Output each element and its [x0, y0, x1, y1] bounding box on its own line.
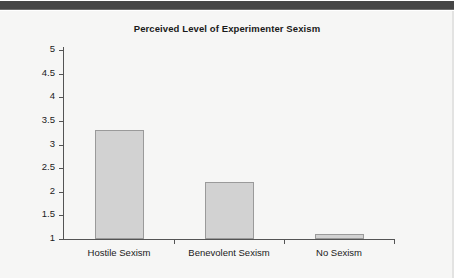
y-tick-label: 3	[50, 138, 55, 149]
y-tick-mark	[59, 121, 64, 122]
y-tick-mark	[59, 168, 64, 169]
y-tick-mark	[59, 215, 64, 216]
y-tick-mark	[59, 239, 64, 240]
x-tick-mark	[284, 239, 285, 244]
x-axis-label: No Sexism	[316, 247, 362, 258]
y-tick-mark	[59, 74, 64, 75]
chart-canvas: Perceived Level of Experimenter Sexism 5…	[0, 11, 452, 278]
y-tick-mark	[59, 50, 64, 51]
y-tick-label: 2.5	[42, 161, 55, 172]
y-tick-label: 2	[50, 185, 55, 196]
chart-figure: Perceived Level of Experimenter Sexism 5…	[0, 11, 454, 278]
y-tick-label: 1.5	[42, 208, 55, 219]
y-tick-label: 4	[50, 90, 55, 101]
plot-area: 54.543.532.521.51 Hostile SexismBenevole…	[64, 50, 394, 239]
bar	[95, 130, 144, 239]
y-axis-line	[63, 47, 64, 239]
x-tick-mark	[394, 239, 395, 244]
y-tick-label: 1	[50, 232, 55, 243]
x-axis-label: Benevolent Sexism	[188, 247, 269, 258]
y-tick-mark	[59, 145, 64, 146]
y-tick-mark	[59, 97, 64, 98]
y-tick-label: 4.5	[42, 67, 55, 78]
y-tick-label: 5	[50, 43, 55, 54]
chart-title: Perceived Level of Experimenter Sexism	[0, 23, 454, 34]
bar	[205, 182, 254, 239]
bar	[315, 234, 364, 239]
x-axis-label: Hostile Sexism	[88, 247, 151, 258]
figure-page: Perceived Level of Experimenter Sexism 5…	[0, 0, 454, 278]
y-tick-mark	[59, 192, 64, 193]
x-tick-mark	[174, 239, 175, 244]
page-top-band	[0, 1, 454, 10]
y-tick-label: 3.5	[42, 114, 55, 125]
x-axis-line	[63, 239, 394, 240]
